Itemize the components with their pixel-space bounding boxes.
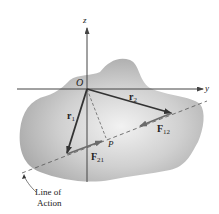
y-axis-label: y xyxy=(205,84,209,93)
r1-label: r1 xyxy=(67,111,75,123)
line-of-action-label-2: Action xyxy=(37,199,62,208)
z-axis-label: z xyxy=(83,16,87,25)
origin-label: O xyxy=(76,78,83,88)
rigid-body-shape xyxy=(20,59,204,182)
diagram-canvas xyxy=(0,0,219,214)
point-P-label: P xyxy=(108,140,114,149)
r2-label: r2 xyxy=(129,92,137,104)
line-of-action-label-1: Line of xyxy=(35,188,61,197)
F12-label: F12 xyxy=(157,124,170,136)
F21-label: F21 xyxy=(91,152,104,164)
